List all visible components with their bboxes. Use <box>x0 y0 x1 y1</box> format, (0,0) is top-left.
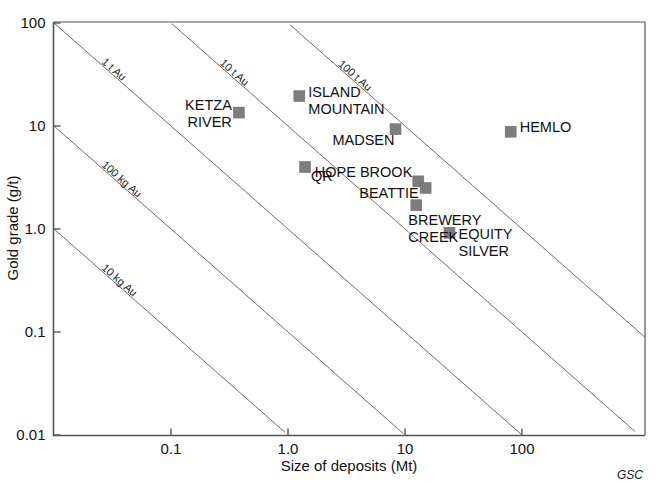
chart-svg: 0.11.010100 0.010.11.010100 10 kg Au100 … <box>0 0 656 489</box>
x-tick-label: 1.0 <box>278 440 299 457</box>
data-point-label: KETZARIVER <box>185 97 232 130</box>
y-axis-title: Gold grade (g/t) <box>4 175 21 280</box>
x-tick-label: 100 <box>509 440 534 457</box>
data-point-label: HEMLO <box>520 119 572 135</box>
contour-label: 10 t Au <box>218 56 252 88</box>
x-tick-label: 10 <box>397 440 414 457</box>
y-tick-label: 10 <box>29 117 46 134</box>
contour-label: 100 kg Au <box>100 158 145 199</box>
x-tick-group: 0.11.010100 <box>161 429 535 457</box>
credit-label: GSC <box>617 468 643 482</box>
y-tick-label: 1.0 <box>25 220 46 237</box>
y-tick-label: 0.01 <box>16 426 45 443</box>
contour-label: 10 kg Au <box>100 261 140 298</box>
y-tick-label: 0.1 <box>25 323 46 340</box>
data-point-label: EQUITYSILVER <box>458 226 512 259</box>
y-tick-label: 100 <box>20 14 45 31</box>
data-point-marker <box>505 126 516 137</box>
contour-line <box>54 229 286 433</box>
x-axis-title: Size of deposits (Mt) <box>281 457 418 474</box>
contour-label: 1 t Au <box>100 55 129 83</box>
data-point-label: ISLANDMOUNTAIN <box>308 84 384 117</box>
data-point-label: HOPE BROOK <box>315 164 413 180</box>
x-tick-label: 0.1 <box>161 440 182 457</box>
data-point-marker <box>411 200 422 211</box>
data-point-marker <box>420 183 431 194</box>
data-point-marker <box>233 107 244 118</box>
data-point-marker <box>294 91 305 102</box>
gold-grade-tonnage-chart: 0.11.010100 0.010.11.010100 10 kg Au100 … <box>0 0 656 489</box>
data-point-label: BEATTIE <box>359 185 419 201</box>
data-point-marker <box>300 161 311 172</box>
data-point-label: MADSEN <box>332 132 394 148</box>
